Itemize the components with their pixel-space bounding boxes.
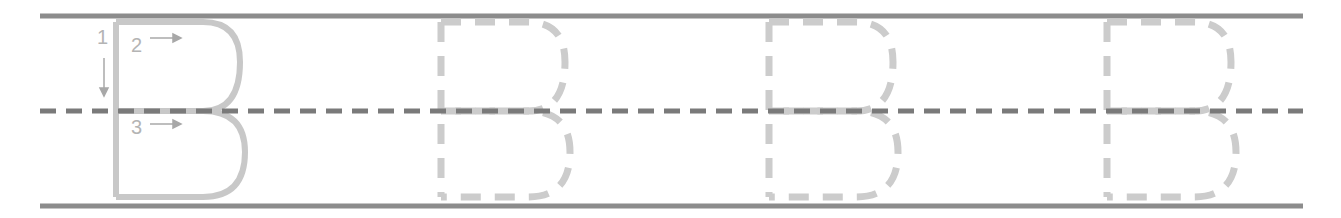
stroke-number-3: 3 (131, 116, 142, 138)
handwriting-worksheet: 1 2 3 (0, 0, 1341, 218)
right-arrow-icon (150, 34, 181, 42)
right-arrow-icon (150, 120, 181, 128)
stroke-number-1: 1 (97, 26, 108, 48)
down-arrow-icon (100, 58, 108, 96)
stroke-order-hints: 1 2 3 (97, 26, 181, 138)
stroke-number-2: 2 (131, 34, 142, 56)
